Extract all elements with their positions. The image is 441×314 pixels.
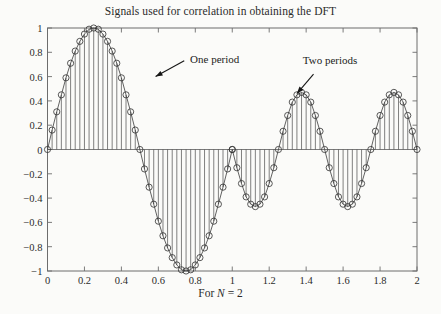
y-tick-label: 1 [37,23,42,34]
x-tick-label: 1 [230,275,235,286]
y-tick-label: −1 [31,266,42,277]
plot-canvas [0,0,441,314]
x-tick-label: 0.2 [78,275,91,286]
y-tick-label: 0.4 [29,95,42,106]
x-tick-label: 0.8 [189,275,202,286]
x-tick-label: 1.4 [300,275,313,286]
y-tick-label: 0.2 [29,120,42,131]
x-tick-label: 1.2 [263,275,276,286]
x-tick-label: 0.4 [115,275,128,286]
annotation-2: Two periods [303,54,358,66]
y-tick-label: −0.8 [23,241,42,252]
x-tick-label: 1.6 [337,275,350,286]
chart-title: Signals used for correlation in obtainin… [0,5,441,17]
y-tick-label: 0.6 [29,71,42,82]
one-period-arrow-head [156,71,163,77]
x-tick-label: 2 [414,275,419,286]
y-tick-label: −0.2 [23,168,42,179]
x-tick-label: 1.8 [373,275,386,286]
annotation-1: One period [190,53,239,65]
y-tick-label: −0.4 [23,193,42,204]
x-tick-label: 0.6 [152,275,165,286]
y-tick-label: −0.6 [23,217,42,228]
x-axis-label: For N = 2 [0,287,441,299]
figure-container: Signals used for correlation in obtainin… [0,0,441,314]
y-tick-label: 0 [37,144,42,155]
x-tick-label: 0 [45,275,50,286]
y-tick-label: 0.8 [29,47,42,58]
